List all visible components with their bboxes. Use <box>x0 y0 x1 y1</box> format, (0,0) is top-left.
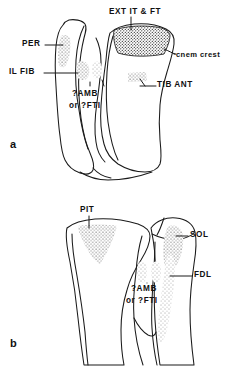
label-amb-fti-a-line2: or ?FTI <box>69 102 101 111</box>
scar-ext-it-ft <box>114 26 170 56</box>
label-pit: PIT <box>80 206 94 215</box>
label-per: PER <box>22 40 41 49</box>
label-cnem-crest: cnem crest <box>176 51 220 59</box>
label-tib-ant: TIB ANT <box>157 81 193 90</box>
label-amb-fti-b-line2: or ?FTI <box>126 297 158 306</box>
panel-a-drawing <box>44 17 176 180</box>
label-amb-fti-b-line1: ?AMB <box>131 285 157 294</box>
label-ext-it-ft: EXT IT & FT <box>109 8 161 17</box>
scar-amb-fti-b <box>137 261 147 283</box>
scar-tib-ant <box>128 72 147 82</box>
scar-amb-fti-a <box>92 61 102 79</box>
label-fdl: FDL <box>194 271 212 280</box>
label-amb-fti-a-line1: ?AMB <box>72 90 98 99</box>
panel-letter-a: a <box>10 139 16 150</box>
scar-amb-fti-b2 <box>151 261 161 283</box>
anatomical-figure: EXT IT & FT cnem crest PER IL FIB TIB AN… <box>0 0 234 367</box>
label-sol: SOL <box>190 231 208 240</box>
label-il-fib: IL FIB <box>9 68 35 77</box>
panel-a-distal-overlap-2 <box>93 168 111 178</box>
panel-letter-b: b <box>10 338 17 349</box>
scar-il-fib <box>76 61 89 80</box>
